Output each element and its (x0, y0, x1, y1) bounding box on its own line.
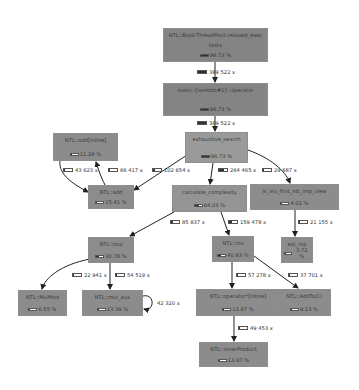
node-calculate-complexity[interactable]: calculate_complexity 64.03 % (172, 185, 247, 212)
node-ntl-innerproduct[interactable]: NTL::innerProduct 13.97 % (199, 342, 268, 367)
node-label: calculate_complexity (182, 189, 237, 195)
usage-bar-icon (218, 359, 227, 362)
node-percent: 3.72 % (284, 247, 310, 259)
node-ntl-mulmod[interactable]: NTL::MulMod 6.55 % (18, 290, 67, 316)
node-label: NTL::MulMod (26, 294, 60, 300)
count-bar-icon (197, 70, 207, 74)
edge-label-self: 42 320 x (157, 300, 180, 306)
edge-label: 21 155 x (298, 219, 333, 225)
node-label: NTL::operator*[inline] (210, 293, 266, 299)
node-ext-mp[interactable]: ext_mp 3.72 % (281, 237, 313, 263)
edge-label: 159 478 x (228, 219, 266, 225)
node-label: NTL::AddTo/Ci (286, 293, 322, 299)
usage-bar-icon (200, 54, 209, 57)
count-bar-icon (170, 220, 180, 224)
node-percent: 4.02 % (280, 200, 308, 206)
edge-label: 22 941 x (72, 272, 107, 278)
edge-n3-n4 (60, 161, 88, 192)
node-percent: 11.28 % (70, 151, 101, 157)
node-ntl-add[interactable]: NTL::add 15.41 % (88, 185, 134, 209)
usage-bar-icon (95, 255, 104, 258)
usage-bar-icon (290, 308, 299, 311)
edge-n11-self (143, 296, 152, 310)
edge-label: 37 701 x (288, 272, 323, 278)
usage-bar-icon (194, 204, 203, 207)
usage-bar-icon (95, 201, 104, 204)
node-relaxed-exec[interactable]: NTL::BasicThreadPool::relaxed_exec tasks… (163, 28, 268, 62)
node-main-lambda[interactable]: main::{lambda#1}::operator 96.73 % (163, 83, 268, 116)
node-ntl-mul[interactable]: NTL::mul 30.78 % (88, 237, 134, 263)
edge-label: 389 522 x (197, 69, 235, 75)
usage-bar-icon (97, 308, 106, 311)
count-bar-icon (236, 273, 246, 277)
node-label: NTL::innerProduct (210, 346, 256, 352)
edge-label: 264 465 x (218, 167, 256, 173)
usage-bar-icon (217, 254, 226, 257)
node-label: NTL::mul_aux (95, 294, 130, 300)
node-ntl-inv[interactable]: NTL::inv 40.63 % (212, 236, 254, 262)
usage-bar-icon (201, 155, 210, 158)
count-bar-icon (228, 220, 238, 224)
edge-n5-n7 (130, 212, 174, 236)
node-ntl-operator-mul[interactable]: NTL::operator*[inline] 13.87 % (196, 289, 280, 316)
node-label: exhaustive_search (192, 136, 240, 142)
node-percent: 40.63 % (217, 252, 248, 258)
count-bar-icon (298, 220, 308, 224)
usage-bar-icon (200, 108, 209, 111)
count-bar-icon (262, 168, 272, 172)
node-label: main::{lambda#1}::operator (178, 87, 254, 93)
node-percent: 13.97 % (218, 357, 249, 363)
count-bar-icon (108, 168, 118, 172)
edge-label: 54 519 x (115, 272, 150, 278)
edge-n2-n5 (210, 163, 213, 184)
usage-bar-icon (28, 308, 37, 311)
node-label: NTL::BasicThreadPool::relaxed_exec (169, 32, 262, 38)
count-bar-icon (152, 168, 162, 172)
count-bar-icon (72, 273, 82, 277)
edge-label: 389 522 x (197, 120, 235, 126)
count-bar-icon (238, 326, 248, 330)
count-bar-icon (218, 168, 228, 172)
node-percent: 6.55 % (28, 306, 56, 312)
node-ntl-add-inline[interactable]: NTL::add[inline] 11.28 % (53, 133, 118, 161)
node-percent: 96.73 % (201, 153, 232, 159)
node-label: is_inv_first_ntt_imp_view (262, 188, 326, 194)
node-percent: 96.73 % (200, 106, 231, 112)
count-bar-icon (288, 273, 298, 277)
usage-bar-icon (222, 308, 231, 311)
edge-n4-n3 (96, 162, 105, 185)
node-percent: 30.78 % (95, 253, 126, 259)
node-percent: 15.41 % (95, 199, 126, 205)
count-bar-icon (63, 168, 73, 172)
edge-label: 102 654 x (152, 167, 190, 173)
edge-label: 29 687 x (262, 167, 297, 173)
node-percent: 64.03 % (194, 202, 225, 208)
edge-label: 66 417 x (108, 167, 143, 173)
node-ntl-addto[interactable]: NTL::AddTo/Ci 9.13 % (277, 289, 331, 316)
node-percent: 9.13 % (290, 306, 318, 312)
count-bar-icon (115, 273, 125, 277)
edge-label: 57 278 x (236, 272, 271, 278)
usage-bar-icon (284, 252, 292, 255)
count-bar-icon (197, 121, 207, 125)
node-label-cont: tasks (209, 42, 223, 48)
node-percent: 13.39 % (97, 306, 128, 312)
node-label: NTL::add[inline] (65, 137, 106, 143)
node-label: NTL::add (99, 189, 122, 195)
edge-label: 85 837 x (170, 219, 205, 225)
node-label: NTL::inv (222, 240, 243, 246)
node-label: NTL::mul (99, 241, 122, 247)
node-percent: 96.73 % (200, 52, 231, 58)
usage-bar-icon (70, 153, 79, 156)
node-exhaustive-search[interactable]: exhaustive_search 96.73 % (185, 132, 248, 163)
usage-bar-icon (280, 202, 289, 205)
node-ntl-mul-aux[interactable]: NTL::mul_aux 13.39 % (82, 290, 143, 316)
node-is-inv-first[interactable]: is_inv_first_ntt_imp_view 4.02 % (250, 184, 339, 210)
node-percent: 13.87 % (222, 306, 253, 312)
edge-label: 43 623 x (63, 167, 98, 173)
edge-label: 49 453 x (238, 325, 273, 331)
